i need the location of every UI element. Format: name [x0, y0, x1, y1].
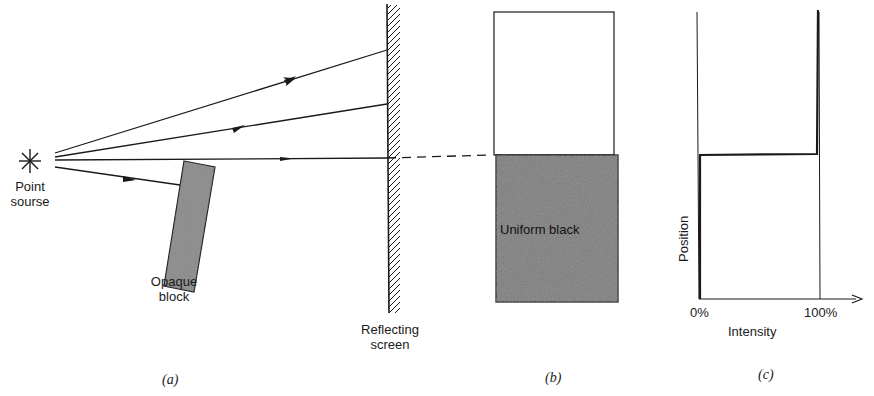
- opaque-block-label: Opaque block: [139, 274, 209, 304]
- reference-100: [819, 12, 820, 299]
- point-source-label-line1: Point: [2, 179, 58, 194]
- reflecting-screen-label-line2: screen: [350, 337, 430, 352]
- caption-a: (a): [162, 372, 178, 388]
- opaque-block-label-line1: Opaque: [139, 274, 209, 289]
- caption-b: (b): [545, 370, 561, 386]
- intensity-axis-label: Intensity: [728, 324, 776, 339]
- position-axis-label: Position: [676, 216, 691, 262]
- lit-region: [494, 12, 614, 155]
- opaque-block-label-line2: block: [139, 289, 209, 304]
- reflecting-screen-label-line1: Reflecting: [350, 322, 430, 337]
- reflecting-screen-label: Reflecting screen: [350, 322, 430, 352]
- x-tick-100: 100%: [804, 305, 837, 320]
- opaque-block: [164, 161, 215, 292]
- panel-a: [19, 4, 490, 313]
- intensity-profile: [700, 10, 818, 299]
- reflecting-screen: [387, 4, 400, 313]
- uniform-black-label: Uniform black: [500, 222, 579, 237]
- panel-b: [494, 12, 618, 302]
- point-source-label: Point sourse: [2, 179, 58, 209]
- x-tick-0: 0%: [690, 305, 709, 320]
- caption-c: (c): [758, 367, 774, 383]
- shadow-figure: Point sourse Opaque block Reflecting scr…: [0, 0, 874, 396]
- light-rays: [55, 50, 490, 185]
- panel-c: [697, 10, 862, 303]
- y-axis: [697, 12, 699, 299]
- point-source-icon: [19, 149, 41, 173]
- point-source-label-line2: sourse: [2, 194, 58, 209]
